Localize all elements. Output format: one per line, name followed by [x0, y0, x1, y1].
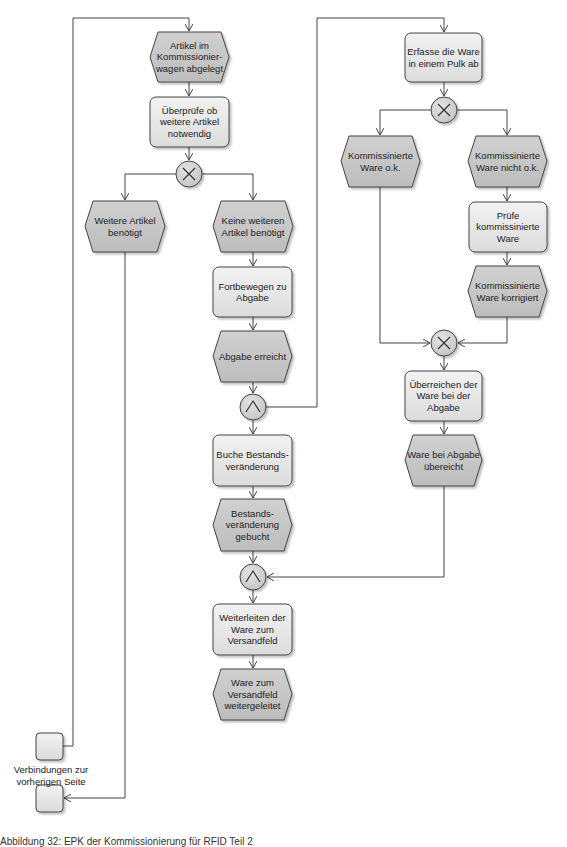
- and-connector-2[interactable]: [240, 564, 266, 590]
- event-e4[interactable]: [213, 331, 292, 382]
- page-connector-out[interactable]: [36, 733, 63, 760]
- function-f5[interactable]: [405, 371, 482, 421]
- xor-connector-3[interactable]: [431, 330, 457, 356]
- function-f2[interactable]: [213, 267, 292, 317]
- edge-e7-xor3: [458, 317, 507, 343]
- figure-caption: Abbildung 32: EPK der Kommissionierung f…: [0, 836, 253, 847]
- edge-xor1-e2: [125, 174, 176, 200]
- page-connector-in[interactable]: [36, 785, 63, 812]
- function-f1[interactable]: [150, 97, 229, 147]
- function-f4[interactable]: [469, 202, 547, 252]
- event-e10[interactable]: [213, 669, 292, 720]
- event-e6[interactable]: [468, 136, 547, 187]
- event-e7[interactable]: [468, 266, 547, 317]
- event-e9[interactable]: [213, 499, 292, 551]
- event-e1[interactable]: [150, 32, 229, 82]
- and-connector-1[interactable]: [240, 394, 266, 420]
- event-e5[interactable]: [341, 136, 420, 187]
- edge-xor1-e3: [202, 174, 253, 200]
- edge-e8-and2: [267, 486, 444, 577]
- edge-xor2-e6: [457, 110, 507, 135]
- xor-connector-1[interactable]: [176, 161, 202, 187]
- function-f3[interactable]: [405, 33, 482, 82]
- function-f6[interactable]: [213, 435, 292, 486]
- function-f7[interactable]: [213, 604, 292, 655]
- event-e8[interactable]: [405, 435, 482, 486]
- page-connector-label: Verbindungen zur vorherigen Seite: [10, 764, 92, 787]
- edge-e5-xor3: [380, 187, 430, 343]
- event-e2[interactable]: [85, 201, 165, 252]
- event-e3[interactable]: [213, 201, 293, 252]
- xor-connector-2[interactable]: [431, 97, 457, 123]
- edge-xor2-e5: [380, 110, 431, 135]
